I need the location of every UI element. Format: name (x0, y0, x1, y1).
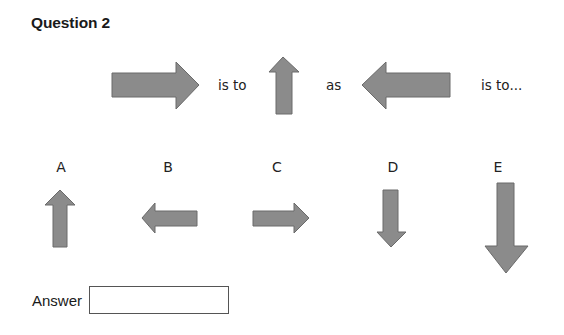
option-a-arrow-up-icon (45, 190, 75, 247)
stem-word-as: as (326, 77, 341, 93)
stem-word-is-to: is to (218, 77, 247, 93)
option-label-a: A (51, 159, 71, 175)
option-label-d: D (383, 159, 403, 175)
option-d-arrow-down-icon (377, 190, 406, 247)
option-label-e: E (488, 159, 508, 175)
option-e-arrow-down-icon (485, 183, 528, 273)
answer-input[interactable] (89, 286, 229, 314)
option-label-b: B (158, 159, 178, 175)
option-b-arrow-left-icon (142, 203, 197, 233)
option-c-arrow-right-icon (253, 203, 309, 233)
stem-arrow-right-icon (112, 62, 199, 109)
stem-word-is-to-ellipsis: is to... (481, 77, 522, 93)
answer-label: Answer (32, 292, 82, 309)
stem-arrow-left-icon (362, 62, 450, 109)
stem-arrow-up-icon (269, 57, 299, 114)
option-label-c: C (267, 159, 287, 175)
